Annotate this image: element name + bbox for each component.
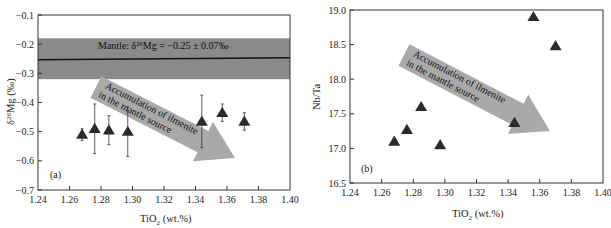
x-tick-label: 1.28 xyxy=(405,187,423,198)
triangle-marker xyxy=(434,139,446,149)
y-tick-label: −0.7 xyxy=(16,185,34,196)
x-tick-label: 1.30 xyxy=(124,194,142,205)
x-axis-label: TiO2 (wt.%) xyxy=(140,213,192,227)
mantle-band-label: Mantle: δ²⁶Mg = −0.25 ± 0.07‰ xyxy=(98,40,228,51)
triangle-marker xyxy=(527,11,539,21)
x-tick-label: 1.24 xyxy=(29,194,47,205)
x-tick-label: 1.34 xyxy=(187,194,205,205)
x-tick-label: 1.40 xyxy=(594,187,611,198)
x-tick-label: 1.28 xyxy=(92,194,110,205)
y-tick-label: −0.1 xyxy=(16,10,34,21)
triangle-marker xyxy=(196,115,208,125)
triangle-marker xyxy=(76,129,88,139)
triangle-marker xyxy=(401,124,413,134)
x-axis-label: TiO2 (wt.%) xyxy=(452,208,504,222)
triangle-marker xyxy=(415,101,427,111)
y-tick-label: 17.5 xyxy=(329,108,347,119)
x-tick-label: 1.26 xyxy=(61,194,79,205)
x-tick-label: 1.38 xyxy=(563,187,581,198)
x-tick-label: 1.26 xyxy=(373,187,391,198)
y-tick-label: 18.5 xyxy=(329,39,347,50)
triangle-marker xyxy=(388,135,400,145)
ilmenite-arrow: Accumulation of ilmenitein the mantle so… xyxy=(394,35,560,150)
triangle-marker xyxy=(216,107,228,117)
x-axis-ticks: 1.241.261.281.301.321.341.361.381.40 xyxy=(341,179,611,198)
triangle-marker xyxy=(238,115,250,125)
x-tick-label: 1.40 xyxy=(281,194,299,205)
y-tick-label: −0.4 xyxy=(16,97,34,108)
triangle-marker xyxy=(122,126,134,136)
y-tick-label: 18.0 xyxy=(329,74,347,85)
y-axis-label: δ26Mg (‰) xyxy=(5,78,17,125)
panel-label: (b) xyxy=(361,163,373,175)
x-tick-label: 1.30 xyxy=(436,187,454,198)
x-tick-label: 1.36 xyxy=(218,194,236,205)
x-tick-label: 1.36 xyxy=(531,187,549,198)
triangle-marker xyxy=(103,124,115,134)
x-axis-ticks: 1.241.261.281.301.321.341.361.381.40 xyxy=(29,186,299,205)
panel-label: (a) xyxy=(50,169,61,181)
ilmenite-arrow: Accumulation of ilmenitein the mantle so… xyxy=(86,67,245,177)
y-tick-label: −0.2 xyxy=(16,39,34,50)
x-tick-label: 1.24 xyxy=(341,187,359,198)
y-axis-label: Nb/Ta xyxy=(311,84,322,110)
y-tick-label: −0.3 xyxy=(16,68,34,79)
y-tick-label: 16.5 xyxy=(329,178,347,189)
triangle-marker xyxy=(89,123,101,133)
x-tick-label: 1.32 xyxy=(155,194,173,205)
y-tick-label: −0.6 xyxy=(16,155,34,166)
y-tick-label: 19.0 xyxy=(329,5,347,16)
x-tick-label: 1.38 xyxy=(250,194,268,205)
y-tick-label: 17.0 xyxy=(329,143,347,154)
x-tick-label: 1.34 xyxy=(499,187,517,198)
figure: Accumulation of ilmenitein the mantle so… xyxy=(0,0,611,227)
triangle-marker xyxy=(550,40,562,50)
x-tick-label: 1.32 xyxy=(468,187,486,198)
y-tick-label: −0.5 xyxy=(16,126,34,137)
panel-b-chart: Accumulation of ilmenitein the mantle so… xyxy=(311,5,611,223)
panel-a-chart: Accumulation of ilmenitein the mantle so… xyxy=(5,10,299,228)
